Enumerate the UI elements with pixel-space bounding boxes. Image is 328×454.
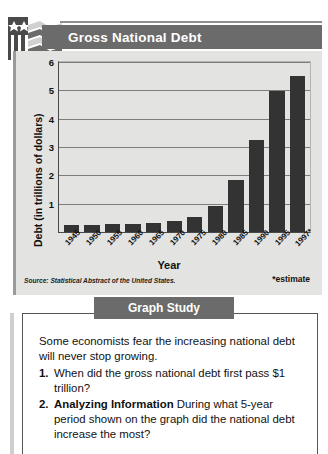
y-axis-tick: 3 [49,142,54,153]
question-emphasis: Analyzing Information [54,398,177,410]
y-axis-tick: 2 [49,170,54,181]
plot-area: 123456 [58,61,311,233]
bar-1995 [269,91,284,232]
bar-1990 [249,140,264,232]
x-axis-tick: 1995 [271,235,287,261]
bar-series [59,62,310,232]
x-axis-tick: 1970 [166,235,182,261]
chart-panel: Debt (in trillions of dollars) 123456 19… [13,51,322,295]
page-root: Gross National Debt Debt (in trillions o… [0,0,328,454]
study-question: 1.When did the gross national debt first… [39,366,305,396]
study-question-list: 1.When did the gross national debt first… [39,366,305,442]
page-title: Gross National Debt [42,30,202,45]
graph-study-box: Some economists fear the increasing nati… [22,313,318,454]
y-axis-tick: 6 [49,57,54,68]
chart-footnote: *estimate [272,274,310,284]
y-axis-tick: 1 [49,198,54,209]
study-intro: Some economists fear the increasing nati… [39,334,305,364]
x-axis-tick: 1990 [250,235,266,261]
chart-title-banner: Gross National Debt [42,25,322,49]
study-question: 2.Analyzing Information During what 5-ye… [39,397,305,442]
y-axis-tick: 4 [49,113,54,124]
bar-1985 [228,180,243,232]
x-axis-tick: 1945 [61,235,77,261]
x-axis-tick: 1997* [293,235,309,261]
y-axis-label: Debt (in trillions of dollars) [32,113,44,247]
x-axis-tick: 1985 [229,235,245,261]
question-text: When did the gross national debt first p… [54,367,285,394]
x-axis-tick: 1980 [208,235,224,261]
x-axis-tick: 1955 [103,235,119,261]
x-axis-tick-labels: 1945195019551960196519701975198019851990… [58,235,311,261]
title-rule [60,21,322,23]
x-axis-tick: 1965 [145,235,161,261]
x-axis-tick: 1960 [124,235,140,261]
graph-study-banner: Graph Study [94,297,234,319]
x-axis-tick: 1950 [82,235,98,261]
bar-1980 [208,206,223,232]
question-number: 2. [39,397,49,412]
x-axis-tick: 1975 [187,235,203,261]
x-axis-label: Year [16,259,322,271]
left-rule [10,313,14,454]
y-axis-tick: 5 [49,85,54,96]
chart-source: Source: Statistical Abstract of the Unit… [24,277,175,284]
question-number: 1. [39,366,49,381]
bar-1997 [290,76,305,232]
